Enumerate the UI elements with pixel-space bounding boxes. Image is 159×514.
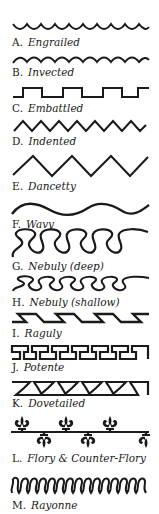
label-nebuly-deep: G.Nebuly (deep) <box>12 260 104 272</box>
label-wavy: F.Wavy <box>12 218 54 230</box>
label-name: Rayonne <box>31 499 77 511</box>
label-letter: B. <box>12 66 23 78</box>
nebuly-deep-line <box>13 229 148 257</box>
raguly-line <box>12 314 149 322</box>
label-name: Dovetailed <box>28 397 85 409</box>
label-letter: F. <box>12 218 21 230</box>
label-name: Flory & Counter-Flory <box>27 452 146 464</box>
label-letter: E. <box>12 180 23 192</box>
label-letter: D. <box>12 135 23 147</box>
label-name: Potente <box>24 361 65 373</box>
label-letter: G. <box>12 260 23 272</box>
label-flory-counter-flory: L.Flory & Counter-Flory <box>12 452 146 464</box>
label-name: Invected <box>28 66 74 78</box>
label-dovetailed: K.Dovetailed <box>12 397 85 409</box>
fleur-de-lis-inverted-icon <box>37 431 51 448</box>
label-name: Indented <box>28 135 76 147</box>
label-letter: I. <box>12 327 20 339</box>
label-letter: L. <box>12 452 22 464</box>
fleur-de-lis-inverted-group <box>37 431 150 448</box>
label-invected: B.Invected <box>12 66 74 78</box>
rayonne-line <box>11 478 146 493</box>
embattled-line <box>13 88 149 97</box>
label-raguly: I.Raguly <box>12 327 62 339</box>
indented-line <box>14 121 146 131</box>
label-letter: H. <box>12 296 25 308</box>
fleur-de-lis-inverted-icon <box>81 431 95 448</box>
label-letter: K. <box>12 397 23 409</box>
label-embattled: C.Embattled <box>12 102 83 114</box>
fleur-de-lis-icon <box>103 416 117 433</box>
fleur-de-lis-icon <box>59 416 73 433</box>
engrailed-line <box>13 24 149 29</box>
fleur-de-lis-inverted-icon <box>139 431 150 448</box>
label-letter: C. <box>12 102 23 114</box>
label-indented: D.Indented <box>12 135 76 147</box>
label-name: Wavy <box>26 218 54 230</box>
label-name: Engrailed <box>28 36 80 48</box>
label-name: Dancetty <box>28 180 76 192</box>
label-potente: J.Potente <box>12 361 64 373</box>
dancetty-line <box>13 156 148 176</box>
label-nebuly-shallow: H.Nebuly (shallow) <box>12 296 120 308</box>
nebuly-shallow-line <box>13 276 149 291</box>
fleur-de-lis-icon <box>15 416 29 433</box>
label-engrailed: A.Engrailed <box>12 36 80 48</box>
label-name: Raguly <box>25 327 62 339</box>
potente-line <box>12 346 148 359</box>
label-rayonne: M.Rayonne <box>12 499 78 511</box>
label-letter: M. <box>12 499 26 511</box>
fleur-de-lis-upright-group <box>15 416 117 433</box>
wavy-line <box>12 204 149 215</box>
label-name: Nebuly (deep) <box>28 260 104 272</box>
invected-line <box>13 58 149 64</box>
label-dancetty: E.Dancetty <box>12 180 76 192</box>
dovetailed-line <box>12 382 148 395</box>
label-name: Nebuly (shallow) <box>30 296 120 308</box>
label-letter: A. <box>12 36 23 48</box>
label-letter: J. <box>12 361 19 373</box>
label-name: Embattled <box>28 102 83 114</box>
